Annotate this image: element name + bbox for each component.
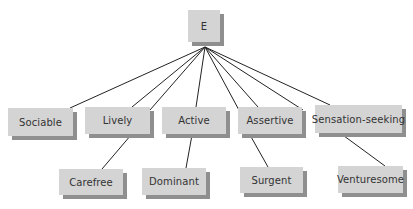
node-sensation-seeking: Sensation-seeking bbox=[315, 105, 402, 133]
root-connector-line bbox=[205, 47, 240, 112]
node-lively: Lively bbox=[85, 107, 150, 134]
node-label: Carefree bbox=[69, 177, 113, 188]
node-label: Surgent bbox=[251, 175, 291, 186]
child-connector-line bbox=[102, 135, 131, 169]
node-sociable: Sociable bbox=[8, 108, 73, 136]
node-label: Venturesome bbox=[337, 174, 404, 185]
node-assertive: Assertive bbox=[238, 107, 302, 134]
root-connector-line bbox=[70, 47, 205, 108]
node-label: E bbox=[201, 21, 207, 32]
root-connector-line bbox=[205, 47, 258, 107]
node-label: Sensation-seeking bbox=[312, 114, 405, 125]
node-e: E bbox=[188, 10, 220, 42]
node-surgent: Surgent bbox=[240, 167, 303, 193]
node-label: Sociable bbox=[19, 117, 62, 128]
trait-hierarchy-diagram: E Sociable Lively Active Assertive Sensa… bbox=[0, 0, 413, 209]
child-connector-line bbox=[186, 135, 192, 168]
node-venturesome: Venturesome bbox=[338, 166, 403, 193]
root-connector-line bbox=[205, 47, 330, 105]
root-connector-line bbox=[205, 47, 303, 110]
node-label: Active bbox=[178, 115, 210, 126]
node-dominant: Dominant bbox=[142, 168, 206, 195]
node-label: Lively bbox=[103, 115, 133, 126]
node-carefree: Carefree bbox=[59, 169, 123, 195]
child-connector-line bbox=[250, 135, 268, 167]
node-label: Assertive bbox=[246, 115, 293, 126]
node-label: Dominant bbox=[149, 176, 199, 187]
child-connector-line bbox=[340, 133, 385, 166]
root-connector-line bbox=[132, 47, 205, 107]
node-active: Active bbox=[162, 107, 226, 134]
